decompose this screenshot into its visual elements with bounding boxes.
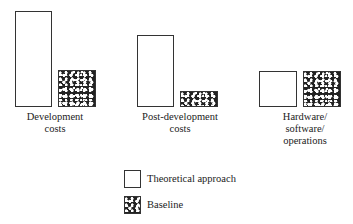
bar-hardware-theoretical	[259, 71, 297, 107]
legend-swatch-baseline	[124, 196, 141, 214]
category-label-development: Development costs	[10, 111, 100, 135]
bar-development-baseline	[58, 70, 96, 107]
bar-postdev-baseline	[180, 91, 218, 107]
legend-label-baseline: Baseline	[147, 199, 183, 211]
bar-hardware-baseline	[303, 71, 341, 107]
bar-postdev-theoretical	[137, 35, 174, 107]
category-label-postdev: Post-development costs	[125, 111, 235, 135]
legend-label-theoretical: Theoretical approach	[147, 173, 236, 185]
category-label-hardware: Hardware/ software/ operations	[265, 111, 345, 147]
bar-development-theoretical	[15, 11, 52, 107]
legend-swatch-theoretical	[124, 170, 141, 188]
